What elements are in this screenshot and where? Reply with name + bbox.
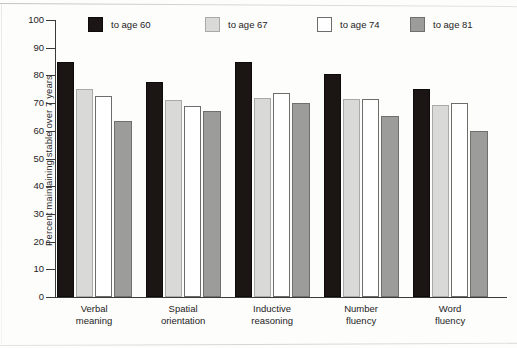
y-tick-label: 50 bbox=[14, 153, 44, 164]
bar-chart-figure: Percent maintaining stable over 7 years … bbox=[0, 0, 517, 348]
y-tick-mark bbox=[46, 159, 55, 160]
bar bbox=[432, 105, 450, 298]
bar bbox=[362, 99, 380, 297]
category-label-line: fluency bbox=[311, 315, 411, 327]
y-tick-label: 60 bbox=[14, 125, 44, 136]
category-label-line: meaning bbox=[44, 315, 144, 327]
y-tick-mark bbox=[46, 20, 55, 21]
category-label-line: reasoning bbox=[222, 315, 322, 327]
category-label-line: Number bbox=[311, 303, 411, 315]
bars-layer bbox=[56, 20, 507, 297]
y-axis-title: Percent maintaining stable over 7 years bbox=[43, 21, 54, 301]
bar bbox=[451, 103, 469, 297]
y-tick-label: 40 bbox=[14, 180, 44, 191]
bar bbox=[57, 62, 75, 297]
y-tick-mark bbox=[46, 297, 55, 298]
y-tick-label: 30 bbox=[14, 208, 44, 219]
bar bbox=[235, 62, 253, 297]
bar bbox=[324, 74, 342, 297]
x-axis-category-label: Wordfluency bbox=[400, 303, 500, 326]
bar bbox=[273, 93, 291, 297]
category-label-line: Inductive bbox=[222, 303, 322, 315]
x-axis-category-label: Inductivereasoning bbox=[222, 303, 322, 326]
bar bbox=[381, 116, 399, 297]
y-tick-label: 90 bbox=[14, 42, 44, 53]
y-tick-mark bbox=[46, 75, 55, 76]
y-tick-label: 70 bbox=[14, 97, 44, 108]
bar bbox=[165, 100, 183, 297]
bar bbox=[470, 131, 488, 297]
y-tick-label: 10 bbox=[14, 263, 44, 274]
y-tick-mark bbox=[46, 48, 55, 49]
category-label-line: orientation bbox=[133, 315, 233, 327]
category-label-line: Word bbox=[400, 303, 500, 315]
y-tick-mark bbox=[46, 186, 55, 187]
y-tick-mark bbox=[46, 242, 55, 243]
x-axis-line bbox=[55, 297, 507, 298]
bar bbox=[114, 121, 132, 297]
category-label-line: Verbal bbox=[44, 303, 144, 315]
y-tick-label: 80 bbox=[14, 69, 44, 80]
y-tick-label: 20 bbox=[14, 236, 44, 247]
bar bbox=[413, 89, 431, 297]
x-axis-category-label: Verbalmeaning bbox=[44, 303, 144, 326]
bar bbox=[146, 82, 164, 297]
bar bbox=[203, 111, 221, 297]
y-tick-mark bbox=[46, 103, 55, 104]
y-tick-mark bbox=[46, 269, 55, 270]
x-axis-category-label: Numberfluency bbox=[311, 303, 411, 326]
bar bbox=[184, 106, 202, 297]
bar bbox=[95, 96, 113, 297]
bar bbox=[76, 89, 94, 297]
x-axis-category-label: Spatialorientation bbox=[133, 303, 233, 326]
category-label-line: Spatial bbox=[133, 303, 233, 315]
category-label-line: fluency bbox=[400, 315, 500, 327]
y-tick-mark bbox=[46, 131, 55, 132]
bar bbox=[292, 103, 310, 297]
scan-edge-left bbox=[1, 4, 2, 344]
y-tick-mark bbox=[46, 214, 55, 215]
bar bbox=[343, 99, 361, 297]
scan-edge-bottom bbox=[0, 343, 517, 346]
bar bbox=[254, 98, 272, 297]
y-tick-label: 100 bbox=[14, 14, 44, 25]
y-tick-label: 0 bbox=[14, 291, 44, 302]
